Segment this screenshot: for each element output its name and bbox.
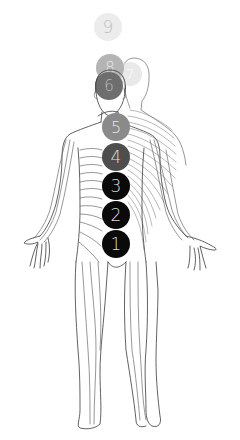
circle-6-label: 6 [104,77,114,95]
circle-9-label: 9 [103,17,114,37]
circle-9: 9 [94,13,122,41]
circle-5: 5 [102,113,130,141]
body-diagram: 9 7 8 6 5 4 3 2 1 [0,0,240,440]
circle-4: 4 [102,143,130,171]
circle-4-label: 4 [111,147,122,167]
circle-1-label: 1 [111,234,122,254]
circle-2-label: 2 [111,205,122,225]
circle-1: 1 [102,230,130,258]
circle-6: 6 [95,72,123,100]
circle-3: 3 [102,172,130,200]
circle-3-label: 3 [111,176,122,196]
circle-7-label: 7 [126,66,135,82]
circle-5-label: 5 [111,118,121,137]
circle-2: 2 [102,201,130,229]
